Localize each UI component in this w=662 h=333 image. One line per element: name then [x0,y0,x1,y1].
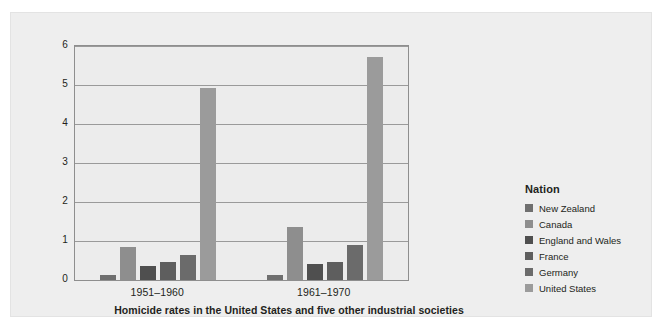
bar [267,275,283,280]
bar [367,57,383,280]
bar [180,255,196,280]
bar [327,262,343,280]
legend-item[interactable]: France [525,249,653,263]
legend-item-list: New ZealandCanadaEngland and WalesFrance… [525,201,653,295]
legend-item-label: France [539,251,569,262]
bar [347,245,363,280]
legend-item[interactable]: Canada [525,217,653,231]
bar [307,264,323,280]
legend-item-label: New Zealand [539,203,595,214]
chart-figure: Mean annual rate of murders per 100,000 … [0,0,662,333]
bar [160,262,176,280]
gridline [75,46,408,47]
y-axis-tick-label: 1 [42,235,68,245]
legend-title: Nation [525,183,653,196]
legend-swatch-icon [525,284,533,292]
gridline [75,85,408,86]
legend-swatch-icon [525,204,533,212]
y-axis-tick-label: 3 [42,157,68,167]
legend-swatch-icon [525,236,533,244]
legend-swatch-icon [525,220,533,228]
figure-panel: Mean annual rate of murders per 100,000 … [10,12,652,317]
bar [120,247,136,280]
legend-item-label: England and Wales [539,235,621,246]
y-axis-tick-label: 5 [42,79,68,89]
bar [100,275,116,280]
legend-item-label: Canada [539,219,572,230]
legend-item[interactable]: England and Wales [525,233,653,247]
chart-caption: Homicide rates in the United States and … [74,304,504,316]
bar [287,227,303,280]
bar [200,88,216,280]
legend-item[interactable]: United States [525,281,653,295]
legend: Nation New ZealandCanadaEngland and Wale… [525,183,653,297]
plot-area [74,45,409,281]
y-axis-tick-label: 0 [42,274,68,284]
gridline [75,202,408,203]
x-axis-tick-label: 1951–1960 [74,287,241,298]
legend-item-label: Germany [539,267,578,278]
y-axis-tick-label: 6 [42,40,68,50]
x-axis-tick-label: 1961–1970 [241,287,408,298]
legend-swatch-icon [525,252,533,260]
gridline [75,241,408,242]
bar [140,266,156,280]
legend-item-label: United States [539,283,596,294]
gridline [75,124,408,125]
legend-swatch-icon [525,268,533,276]
legend-item[interactable]: New Zealand [525,201,653,215]
y-axis-tick-label: 2 [42,196,68,206]
legend-item[interactable]: Germany [525,265,653,279]
y-axis-tick-label: 4 [42,118,68,128]
gridline [75,163,408,164]
